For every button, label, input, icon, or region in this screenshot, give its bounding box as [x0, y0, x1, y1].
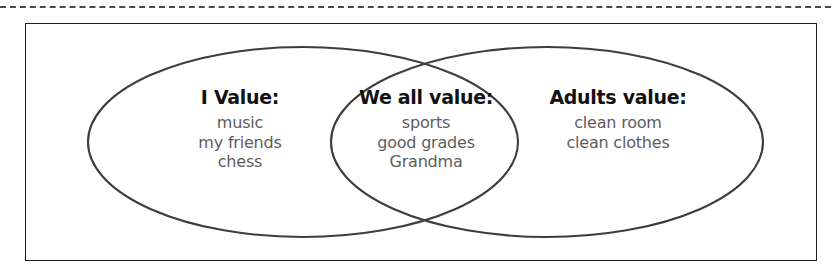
list-item: chess [150, 152, 330, 172]
venn-region-left: I Value: music my friends chess [150, 88, 330, 172]
list-item: good grades [338, 133, 514, 153]
list-item: sports [338, 113, 514, 133]
venn-region-left-items: music my friends chess [150, 113, 330, 172]
venn-region-intersection-items: sports good grades Grandma [338, 113, 514, 172]
list-item: my friends [150, 133, 330, 153]
venn-region-right-title: Adults value: [520, 88, 716, 107]
venn-region-intersection-title: We all value: [338, 88, 514, 107]
venn-region-right: Adults value: clean room clean clothes [520, 88, 716, 152]
cut-here-dashed-line [0, 6, 831, 8]
venn-region-right-items: clean room clean clothes [520, 113, 716, 152]
list-item: Grandma [338, 152, 514, 172]
venn-region-intersection: We all value: sports good grades Grandma [338, 88, 514, 172]
worksheet-page: I Value: music my friends chess We all v… [0, 0, 831, 269]
list-item: clean room [520, 113, 716, 133]
venn-region-left-title: I Value: [150, 88, 330, 107]
list-item: clean clothes [520, 133, 716, 153]
list-item: music [150, 113, 330, 133]
